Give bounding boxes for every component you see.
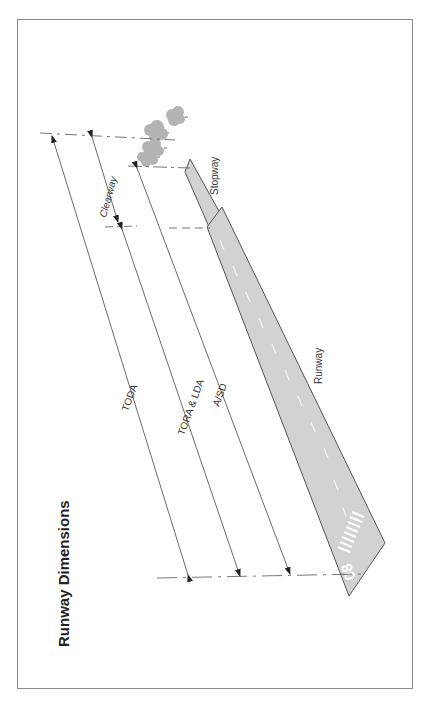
stopway-label: Stopway — [209, 157, 220, 195]
toda-arrow — [52, 136, 188, 575]
page-title: Runway Dimensions — [55, 500, 72, 647]
runway-surface — [207, 207, 385, 596]
runway-dimensions-diagram: 08 TODA TORA & LDA A/SD Clearway Stopway… — [0, 0, 426, 703]
dimension-arrows — [52, 136, 290, 576]
clearway-label: Clearway — [97, 174, 119, 218]
trees-icon — [137, 106, 188, 167]
tora-lda-label: TORA & LDA — [176, 377, 207, 436]
runway-label: Runway — [313, 348, 324, 384]
